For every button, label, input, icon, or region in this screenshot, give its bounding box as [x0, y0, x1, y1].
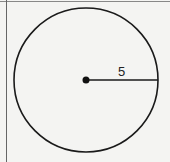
diagram-frame: 5	[0, 0, 170, 162]
circle-diagram: 5	[0, 0, 170, 162]
center-point	[83, 77, 90, 84]
radius-label: 5	[118, 64, 125, 79]
